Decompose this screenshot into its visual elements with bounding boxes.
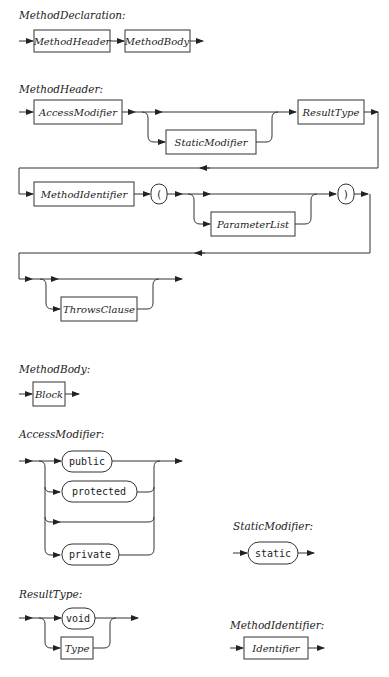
terminal-static: static [255,548,291,559]
rule-method-header: MethodHeader: AccessModifier StaticModif… [18,83,378,321]
rule-access-modifier: AccessModifier: public protected private [18,428,182,565]
rule-title: MethodHeader: [18,83,103,95]
terminal-open-paren: ( [156,189,162,200]
rule-result-type: ResultType: void Type [18,588,138,659]
terminal-private: private [69,549,111,560]
nonterminal-static-modifier: StaticModifier [175,137,249,148]
terminal-protected: protected [72,486,126,497]
nonterminal-block: Block [34,389,63,400]
rule-title: StaticModifier: [233,520,313,532]
nonterminal-result-type: ResultType [302,107,360,118]
rule-method-body: MethodBody: Block [18,363,90,406]
nonterminal-method-identifier: MethodIdentifier [40,189,129,200]
nonterminal-identifier: Identifier [251,643,301,654]
rule-static-modifier: StaticModifier: static [233,520,314,564]
terminal-close-paren: ) [343,189,349,200]
nonterminal-access-modifier: AccessModifier [38,107,118,118]
rule-title: MethodBody: [18,363,90,375]
nonterminal-method-body: MethodBody [124,36,190,47]
nonterminal-parameter-list: ParameterList [216,219,290,230]
nonterminal-throws-clause: ThrowsClause [63,304,135,315]
rule-method-identifier: MethodIdentifier: Identifier [229,619,324,659]
rule-title: MethodIdentifier: [229,619,324,631]
rule-method-declaration: MethodDeclaration: MethodHeader MethodBo… [18,9,203,52]
nonterminal-method-header: MethodHeader [33,36,112,47]
nonterminal-type: Type [65,643,90,654]
syntax-diagram: MethodDeclaration: MethodHeader MethodBo… [0,0,389,677]
rule-title: MethodDeclaration: [18,9,126,21]
rule-title: ResultType: [18,588,82,600]
terminal-public: public [69,456,105,467]
terminal-void: void [66,613,90,624]
rule-title: AccessModifier: [18,428,104,440]
